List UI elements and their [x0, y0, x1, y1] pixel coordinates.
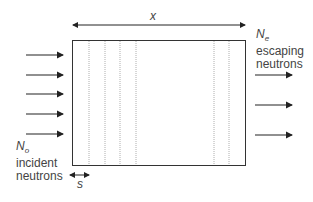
incident-arrows: [26, 55, 63, 134]
escaping-subscript: e: [265, 34, 269, 43]
incident-label: No incident neutrons: [16, 140, 63, 183]
escaping-label: Ne escaping neutrons: [256, 28, 304, 71]
step-label: s: [77, 178, 83, 191]
slab: [73, 41, 246, 166]
incident-line2: neutrons: [16, 170, 63, 183]
escaping-symbol: N: [256, 27, 265, 41]
incident-subscript: o: [25, 146, 29, 155]
incident-symbol: N: [16, 139, 25, 153]
length-label: x: [150, 10, 156, 23]
escaping-line2: neutrons: [256, 58, 304, 71]
escaping-arrows: [255, 75, 292, 135]
